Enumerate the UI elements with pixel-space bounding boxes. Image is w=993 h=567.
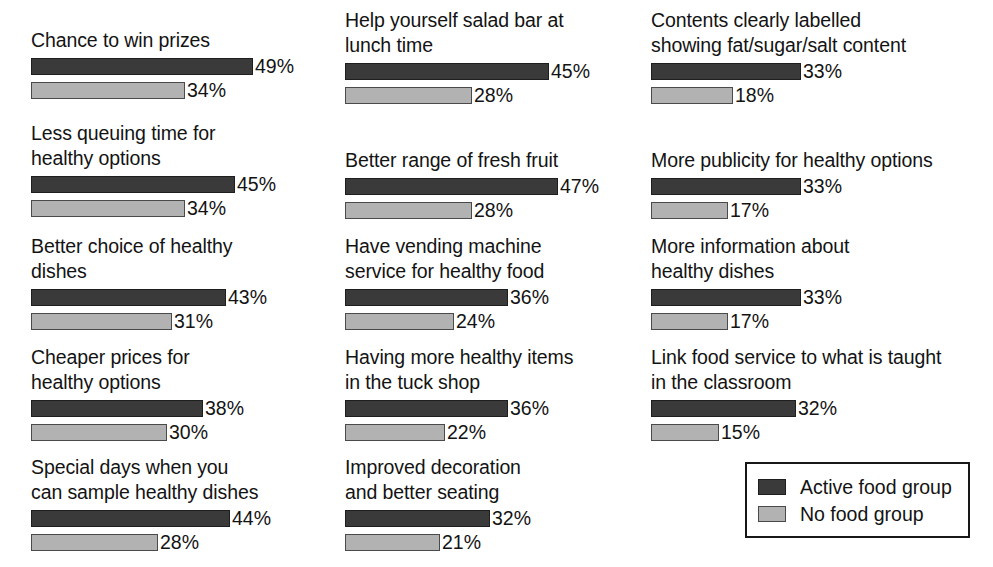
bar-active-food-group bbox=[31, 58, 253, 75]
bar-row: 43% bbox=[31, 287, 267, 308]
bar-row: 17% bbox=[651, 311, 849, 332]
bar-value-label: 45% bbox=[551, 62, 590, 82]
chart-item: Link food service to what is taught in t… bbox=[646, 345, 941, 446]
item-bars: 36% 24% bbox=[345, 287, 549, 332]
bar-value-label: 44% bbox=[232, 509, 271, 529]
bar-active-food-group bbox=[345, 63, 549, 80]
bar-row: 44% bbox=[31, 508, 271, 529]
bar-row: 34% bbox=[31, 198, 276, 219]
bar-row: 17% bbox=[651, 200, 933, 221]
bar-active-food-group bbox=[31, 176, 235, 193]
bar-active-food-group bbox=[31, 289, 226, 306]
bar-no-food-group bbox=[345, 534, 440, 551]
bar-no-food-group bbox=[651, 424, 719, 441]
chart-item: Less queuing time for healthy options 45… bbox=[0, 121, 276, 222]
legend-label: No food group bbox=[800, 504, 924, 524]
chart-item: Better choice of healthy dishes 43% 31% bbox=[0, 234, 267, 335]
item-label: Cheaper prices for healthy options bbox=[31, 345, 244, 395]
bar-value-label: 49% bbox=[255, 57, 294, 77]
bar-row: 36% bbox=[345, 398, 573, 419]
bar-value-label: 47% bbox=[560, 177, 599, 197]
bar-value-label: 30% bbox=[169, 423, 208, 443]
bar-value-label: 32% bbox=[492, 509, 531, 529]
item-label: Better choice of healthy dishes bbox=[31, 234, 267, 284]
item-label: Special days when you can sample healthy… bbox=[31, 455, 271, 505]
bar-active-food-group bbox=[651, 178, 801, 195]
item-bars: 43% 31% bbox=[31, 287, 267, 332]
bar-no-food-group bbox=[31, 424, 167, 441]
bar-value-label: 34% bbox=[187, 199, 226, 219]
chart-item: More publicity for healthy options 33% 1… bbox=[646, 148, 933, 224]
bar-value-label: 21% bbox=[442, 533, 481, 553]
bar-no-food-group bbox=[345, 313, 454, 330]
bar-value-label: 17% bbox=[730, 201, 769, 221]
chart-item: Special days when you can sample healthy… bbox=[0, 455, 271, 556]
chart-item: Chance to win prizes 49% 34% bbox=[0, 28, 294, 104]
chart-column-2: Help yourself salad bar at lunch time 45… bbox=[331, 0, 646, 567]
item-bars: 32% 15% bbox=[651, 398, 941, 443]
bar-value-label: 38% bbox=[205, 399, 244, 419]
bar-value-label: 18% bbox=[735, 86, 774, 106]
chart-legend: Active food group No food group bbox=[745, 462, 970, 538]
chart-item: Having more healthy items in the tuck sh… bbox=[331, 345, 573, 446]
bar-no-food-group bbox=[31, 313, 172, 330]
bar-value-label: 31% bbox=[174, 312, 213, 332]
item-label: Contents clearly labelled showing fat/su… bbox=[651, 8, 906, 58]
bar-value-label: 45% bbox=[237, 175, 276, 195]
chart-item: Contents clearly labelled showing fat/su… bbox=[646, 8, 906, 109]
chart-item: Have vending machine service for healthy… bbox=[331, 234, 549, 335]
bar-row: 28% bbox=[345, 200, 599, 221]
legend-label: Active food group bbox=[800, 477, 952, 497]
bar-row: 38% bbox=[31, 398, 244, 419]
item-bars: 33% 18% bbox=[651, 61, 906, 106]
bar-active-food-group bbox=[651, 289, 801, 306]
bar-value-label: 28% bbox=[474, 86, 513, 106]
item-label: Less queuing time for healthy options bbox=[31, 121, 276, 171]
bar-row: 36% bbox=[345, 287, 549, 308]
item-bars: 45% 28% bbox=[345, 61, 590, 106]
bar-row: 34% bbox=[31, 80, 294, 101]
legend-row-no-food-group: No food group bbox=[758, 500, 956, 527]
bar-no-food-group bbox=[345, 424, 445, 441]
item-label: Improved decoration and better seating bbox=[345, 455, 531, 505]
bar-row: 21% bbox=[345, 532, 531, 553]
bar-value-label: 36% bbox=[510, 288, 549, 308]
bar-row: 49% bbox=[31, 56, 294, 77]
bar-no-food-group bbox=[345, 87, 472, 104]
bar-row: 24% bbox=[345, 311, 549, 332]
bar-row: 28% bbox=[31, 532, 271, 553]
chart-column-1: Chance to win prizes 49% 34% Less queuin… bbox=[0, 0, 331, 567]
item-bars: 36% 22% bbox=[345, 398, 573, 443]
bar-no-food-group bbox=[31, 82, 185, 99]
bar-value-label: 22% bbox=[447, 423, 486, 443]
bar-row: 15% bbox=[651, 422, 941, 443]
bar-no-food-group bbox=[345, 202, 472, 219]
item-bars: 38% 30% bbox=[31, 398, 244, 443]
bar-active-food-group bbox=[345, 510, 490, 527]
bar-value-label: 33% bbox=[803, 177, 842, 197]
item-label: Have vending machine service for healthy… bbox=[345, 234, 549, 284]
bar-row: 18% bbox=[651, 85, 906, 106]
bar-value-label: 15% bbox=[721, 423, 760, 443]
bar-row: 33% bbox=[651, 287, 849, 308]
item-bars: 49% 34% bbox=[31, 56, 294, 101]
bar-row: 32% bbox=[651, 398, 941, 419]
bar-value-label: 34% bbox=[187, 81, 226, 101]
item-label: Having more healthy items in the tuck sh… bbox=[345, 345, 573, 395]
bar-active-food-group bbox=[345, 289, 508, 306]
bar-value-label: 28% bbox=[160, 533, 199, 553]
bar-no-food-group bbox=[651, 313, 728, 330]
bar-value-label: 17% bbox=[730, 312, 769, 332]
bar-no-food-group bbox=[31, 200, 185, 217]
bar-row: 22% bbox=[345, 422, 573, 443]
bar-row: 45% bbox=[345, 61, 590, 82]
item-label: Better range of fresh fruit bbox=[345, 148, 599, 173]
legend-row-active-food-group: Active food group bbox=[758, 473, 956, 500]
bar-row: 28% bbox=[345, 85, 590, 106]
chart-item: More information about healthy dishes 33… bbox=[646, 234, 849, 335]
bar-row: 30% bbox=[31, 422, 244, 443]
item-label: More publicity for healthy options bbox=[651, 148, 933, 173]
item-bars: 32% 21% bbox=[345, 508, 531, 553]
item-label: Link food service to what is taught in t… bbox=[651, 345, 941, 395]
bar-no-food-group bbox=[31, 534, 158, 551]
